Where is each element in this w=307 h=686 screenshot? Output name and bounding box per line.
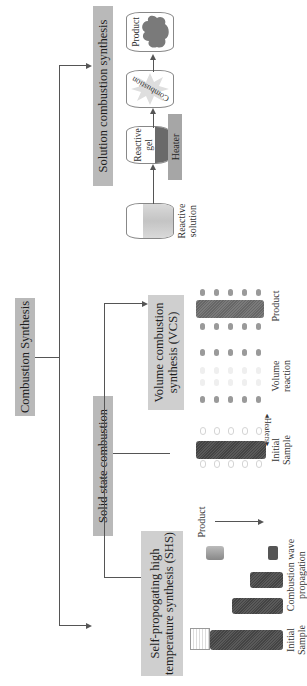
root-box: Combustion Synthesis <box>15 298 35 416</box>
combustion-synthesis-diagram: Combustion Synthesis Solid state combust… <box>0 0 307 686</box>
vcs-product-sample <box>196 300 264 318</box>
arrow-solution-to-gel-head <box>150 164 156 170</box>
heater-dot <box>228 460 234 468</box>
shs-box: Self-propogating high temperature synthe… <box>141 531 183 676</box>
heater-dot <box>242 367 247 374</box>
vcs-label-line1: Volume combustion <box>152 302 166 402</box>
heater-dot <box>228 323 233 330</box>
heater-dot <box>228 349 233 356</box>
shs-product-cap <box>206 546 224 560</box>
vcs-box: Volume combustion synthesis (VCS) <box>148 295 184 410</box>
heater-dot <box>242 379 247 386</box>
heater-dot <box>256 367 261 374</box>
figure-frame: Combustion Synthesis Solid state combust… <box>0 0 307 686</box>
heater-dot <box>214 349 219 356</box>
reactive-solution-line1: Reactive <box>176 196 187 246</box>
arrow-to-solid <box>86 623 92 629</box>
heater-dot <box>256 289 261 296</box>
heater-dot <box>256 460 262 468</box>
shs-stage-wave-line1: Combustion wave <box>285 530 296 620</box>
heater-dot <box>214 427 220 435</box>
heater-dot <box>228 289 233 296</box>
solid-to-children-stem <box>113 453 170 454</box>
shs-stage-wave-line2: propagation <box>296 530 307 620</box>
trunk-line <box>59 66 60 626</box>
heater-dot <box>200 367 205 374</box>
heater-dot <box>200 323 205 330</box>
root-label: Combustion Synthesis <box>18 301 32 413</box>
arrow-to-solution <box>86 63 92 69</box>
reactive-solution-label: Reactive solution <box>176 196 198 246</box>
reactive-gel-line1: Reactive <box>133 127 144 163</box>
shs-igniter <box>190 628 210 650</box>
root-stem <box>35 357 59 358</box>
heater-dot <box>200 396 205 403</box>
vcs-stage-initial-line2: Sample <box>281 432 292 468</box>
shs-product-base <box>268 546 278 560</box>
vcs-stage-volume: Volume reaction <box>270 356 292 396</box>
heater-dot <box>242 349 247 356</box>
product-beaker-label: Product <box>131 13 142 51</box>
heater-dot <box>228 367 233 374</box>
heater-dot <box>256 396 261 403</box>
heater-dot <box>214 396 219 403</box>
vcs-stage-volume-line2: reaction <box>281 356 292 396</box>
heater-dot <box>228 427 234 435</box>
shs-connector-h2 <box>104 454 105 578</box>
heater-dot <box>214 323 219 330</box>
arrow-gel-to-combustion-line <box>153 112 154 128</box>
shs-product-arrow-line <box>215 521 259 522</box>
reactive-gel-line2: gel <box>144 127 155 163</box>
shs-stage-initial: Initial Sample <box>285 622 307 658</box>
shs-wave-sample-2 <box>250 572 283 588</box>
gel-layer <box>155 127 169 163</box>
shs-stage-wave: Combustion wave propagation <box>285 530 307 620</box>
beaker-combustion: Combustion <box>126 70 174 108</box>
heater-dot <box>242 460 248 468</box>
heater-dot <box>200 379 205 386</box>
solution-box: Solution combustion synthesis <box>93 6 113 186</box>
shs-wave-sample-1 <box>232 598 283 614</box>
vcs-stage-product: Product <box>270 286 281 326</box>
shs-product-arrow-head <box>258 519 264 525</box>
vcs-connector-v <box>104 303 142 304</box>
shs-initial-sample <box>210 630 283 650</box>
reactive-solution-line2: solution <box>187 196 198 246</box>
vcs-stage-initial: Initial Sample <box>270 432 292 468</box>
shs-label-line1: Self-propogating high <box>148 548 162 658</box>
vcs-label-line2: synthesis (VCS) <box>166 312 180 394</box>
heater-dot <box>214 379 219 386</box>
reactive-gel-label: Reactive gel <box>133 127 155 163</box>
heater-dot <box>256 427 262 435</box>
solution-label: Solution combustion synthesis <box>96 20 110 173</box>
heater-dot <box>256 323 261 330</box>
solution-connector <box>59 65 87 66</box>
arrow-gel-to-combustion-head <box>150 108 156 114</box>
heater-block: Heater <box>168 114 182 180</box>
heater-dot <box>242 427 248 435</box>
arrow-combustion-to-product-line <box>153 58 154 72</box>
heater-dot <box>214 460 220 468</box>
arrow-solution-to-gel-line <box>153 168 154 204</box>
heater-dot <box>242 396 247 403</box>
shs-stage-initial-line1: Initial <box>285 622 296 658</box>
solid-connector <box>59 625 87 626</box>
solid-state-box: Solid state combustion <box>93 396 113 536</box>
heater-dot <box>200 460 206 468</box>
vcs-initial-sample <box>196 441 266 459</box>
heater-dot <box>242 323 247 330</box>
vcs-connector-h <box>104 304 105 454</box>
heater-dot <box>200 349 205 356</box>
vcs-stage-volume-line1: Volume <box>270 356 281 396</box>
beaker-reactive-solution <box>126 203 174 239</box>
solid-state-label: Solid state combustion <box>96 409 110 523</box>
heater-dot <box>256 349 261 356</box>
heater-dot <box>256 379 261 386</box>
shs-product-label: Product <box>196 494 207 550</box>
heater-dot <box>228 396 233 403</box>
beaker-product: Product <box>126 12 174 52</box>
beaker-reactive-gel: Reactive gel <box>126 126 170 164</box>
heater-dot <box>242 289 247 296</box>
solution-liquid <box>143 204 173 238</box>
heater-dot <box>214 367 219 374</box>
